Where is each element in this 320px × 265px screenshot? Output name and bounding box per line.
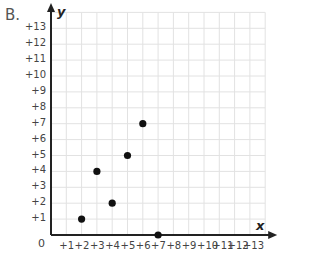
x-tick-label: +2: [75, 241, 90, 251]
x-tick-label: +9: [182, 241, 197, 251]
y-tick-label: +5: [31, 150, 46, 160]
y-tick-label: +11: [25, 54, 46, 64]
x-axis-label: x: [256, 218, 264, 233]
x-tick-label: +8: [166, 241, 181, 251]
y-tick-label: +8: [31, 102, 46, 112]
y-tick-label: +13: [25, 22, 46, 32]
x-tick-label: +7: [151, 241, 166, 251]
x-tick-label: +3: [90, 241, 105, 251]
data-point: [78, 216, 85, 223]
y-axis-label: y: [57, 4, 65, 19]
x-axis-arrow-icon: [268, 231, 277, 239]
data-point: [124, 152, 131, 159]
x-tick-label: +5: [121, 241, 136, 251]
data-point: [109, 200, 116, 207]
origin-label: 0: [38, 238, 45, 249]
data-point: [93, 168, 100, 175]
x-tick-label: +13: [243, 241, 264, 251]
y-tick-label: +12: [25, 38, 46, 48]
y-tick-label: +9: [31, 86, 46, 96]
x-tick-label: +4: [105, 241, 120, 251]
y-tick-label: +10: [25, 70, 46, 80]
data-point: [139, 120, 146, 127]
y-axis-arrow-icon: [47, 3, 55, 12]
x-tick-label: +1: [59, 241, 74, 251]
y-tick-label: +2: [31, 197, 46, 207]
y-tick-label: +3: [31, 181, 46, 191]
y-tick-label: +1: [31, 213, 46, 223]
y-tick-label: +7: [31, 118, 46, 128]
y-tick-label: +6: [31, 134, 46, 144]
data-point: [155, 231, 162, 238]
x-tick-label: +6: [136, 241, 151, 251]
y-tick-label: +4: [31, 165, 46, 175]
